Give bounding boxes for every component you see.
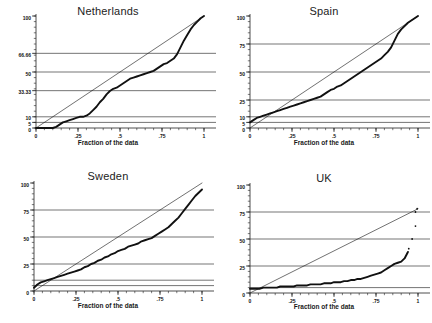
svg-text:.25: .25 (75, 133, 82, 139)
svg-text:0: 0 (242, 292, 245, 298)
svg-text:1: 1 (417, 133, 420, 139)
svg-text:1: 1 (417, 298, 420, 304)
svg-text:50: 50 (25, 71, 31, 77)
svg-text:25: 25 (23, 263, 29, 269)
svg-text:75: 75 (23, 209, 29, 215)
svg-text:0: 0 (35, 133, 38, 139)
svg-text:75: 75 (239, 211, 245, 217)
svg-text:25: 25 (239, 265, 245, 271)
svg-text:1: 1 (203, 133, 206, 139)
svg-text:100: 100 (23, 15, 32, 21)
svg-text:50: 50 (23, 236, 29, 242)
svg-text:.5: .5 (118, 133, 122, 139)
svg-text:.5: .5 (116, 296, 120, 302)
svg-text:0: 0 (249, 298, 252, 304)
svg-text:.25: .25 (289, 298, 296, 304)
svg-text:1: 1 (201, 296, 204, 302)
svg-text:5: 5 (242, 121, 245, 127)
svg-text:.5: .5 (332, 133, 336, 139)
svg-text:100: 100 (237, 184, 246, 190)
svg-text:66.66: 66.66 (18, 52, 31, 58)
svg-text:0: 0 (242, 127, 245, 133)
svg-text:.25: .25 (73, 296, 80, 302)
plot-netherlands: 051033.335066.661000.25.5.751 (0, 0, 216, 162)
svg-text:.75: .75 (157, 296, 164, 302)
svg-text:0: 0 (249, 133, 252, 139)
svg-text:10: 10 (25, 115, 31, 121)
svg-text:.25: .25 (289, 133, 296, 139)
svg-text:25: 25 (239, 99, 245, 105)
panel-netherlands: Netherlands Fraction of the data 051033.… (0, 0, 216, 162)
panel-uk: UK Fraction of the data 02550751000.25.5… (216, 162, 432, 323)
svg-text:100: 100 (237, 15, 246, 21)
panel-sweden: Sweden Fraction of the data 02550751000.… (0, 162, 216, 323)
plot-uk: 02550751000.25.5.751 (216, 162, 432, 323)
svg-text:10: 10 (239, 115, 245, 121)
svg-text:33.33: 33.33 (18, 89, 31, 95)
plot-sweden: 02550751000.25.5.751 (0, 162, 216, 323)
svg-text:75: 75 (239, 43, 245, 49)
svg-text:0: 0 (26, 290, 29, 296)
plot-spain: 05102550751000.25.5.751 (216, 0, 432, 162)
figure-panel-grid: Netherlands Fraction of the data 051033.… (0, 0, 432, 323)
svg-text:100: 100 (21, 182, 30, 188)
svg-text:.75: .75 (373, 133, 380, 139)
svg-text:.5: .5 (332, 298, 336, 304)
svg-text:0: 0 (28, 127, 31, 133)
svg-text:5: 5 (28, 121, 31, 127)
svg-text:50: 50 (239, 238, 245, 244)
svg-text:0: 0 (33, 296, 36, 302)
svg-text:50: 50 (239, 71, 245, 77)
svg-text:.75: .75 (159, 133, 166, 139)
svg-text:.75: .75 (373, 298, 380, 304)
panel-spain: Spain Fraction of the data 0510255075100… (216, 0, 432, 162)
